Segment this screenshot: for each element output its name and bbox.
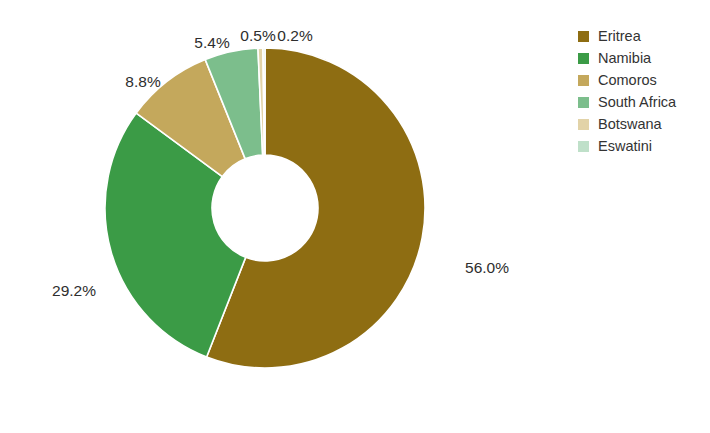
legend-color-swatch: [578, 31, 589, 42]
slice-percent-label: 0.2%: [277, 27, 313, 44]
legend-item[interactable]: Botswana: [578, 116, 676, 133]
legend-item[interactable]: Namibia: [578, 50, 676, 67]
legend-color-swatch: [578, 53, 589, 64]
legend-item-label: Namibia: [598, 50, 651, 67]
legend-item[interactable]: Eritrea: [578, 28, 676, 45]
legend-color-swatch: [578, 97, 589, 108]
legend-item-label: Botswana: [598, 116, 662, 133]
slice-percent-label: 29.2%: [52, 282, 96, 299]
legend-item[interactable]: South Africa: [578, 94, 676, 111]
legend-item[interactable]: Eswatini: [578, 138, 676, 155]
legend-color-swatch: [578, 75, 589, 86]
slice-percent-label: 8.8%: [125, 73, 161, 90]
legend-color-swatch: [578, 141, 589, 152]
chart-legend: EritreaNamibiaComorosSouth AfricaBotswan…: [578, 28, 676, 155]
slice-percent-label: 0.5%: [240, 27, 276, 44]
donut-chart-figure: 56.0%29.2%8.8%5.4%0.5%0.2% EritreaNamibi…: [0, 0, 710, 433]
slice-percent-label: 56.0%: [465, 259, 509, 276]
legend-item-label: Eritrea: [598, 28, 641, 45]
legend-item[interactable]: Comoros: [578, 72, 676, 89]
slice-percent-label: 5.4%: [194, 34, 230, 51]
legend-item-label: Eswatini: [598, 138, 652, 155]
legend-item-label: Comoros: [598, 72, 657, 89]
legend-color-swatch: [578, 119, 589, 130]
donut-slices-group: [105, 48, 425, 368]
legend-item-label: South Africa: [598, 94, 676, 111]
